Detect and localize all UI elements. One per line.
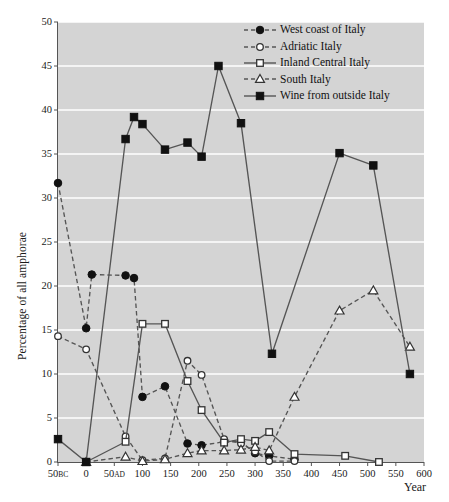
data-point [257,60,264,67]
data-point [83,346,90,353]
data-point [122,438,129,445]
data-point [256,75,265,83]
legend-label: Adriatic Italy [280,41,342,53]
legend-label: Inland Central Italy [280,57,370,69]
data-point [405,342,414,350]
legend-label: Wine from outside Italy [280,90,390,102]
series-line [58,66,410,462]
data-point [121,452,130,460]
y-tick-label: 30 [30,193,52,204]
data-point [161,383,169,391]
legend-label: West coast of Italy [280,24,366,36]
legend-marker-icon [243,89,277,103]
y-tick-label: 40 [30,105,52,116]
data-point [238,436,245,443]
data-point [122,135,129,142]
data-point [268,350,275,357]
y-tick-label: 15 [30,325,52,336]
x-tick-label: 600 [402,469,446,480]
legend-marker-icon [243,56,277,70]
legend-item-inland-central-italy[interactable]: Inland Central Italy [243,55,435,71]
data-point [291,458,298,465]
legend-item-adriatic-italy[interactable]: Adriatic Italy [243,38,435,54]
data-point [198,153,205,160]
data-point [88,271,96,279]
y-tick-label: 45 [30,61,52,72]
data-point [376,459,383,466]
y-tick-label: 5 [30,413,52,424]
series-line [86,324,379,462]
y-tick-label: 25 [30,237,52,248]
data-point [82,324,90,332]
data-point [54,435,61,442]
data-point [184,358,191,365]
legend-item-wine-from-outside-italy[interactable]: Wine from outside Italy [243,88,435,104]
data-point [290,392,299,400]
data-point [406,370,413,377]
y-tick-label: 0 [30,457,52,468]
legend-marker-icon [243,23,277,37]
data-point [130,274,138,282]
y-tick-label: 10 [30,369,52,380]
data-point [54,179,62,187]
data-point [370,162,377,169]
data-point [139,393,147,401]
x-axis-title: Year [404,480,426,495]
legend-label: South Italy [280,74,331,86]
data-point [256,92,263,99]
legend-item-south-italy[interactable]: South Italy [243,71,435,87]
data-point [55,333,62,340]
data-point [237,120,244,127]
data-point [198,407,205,414]
data-point [291,451,298,458]
data-point [257,43,264,50]
chart-root: 05101520253035404550 50BC050AD1001502002… [0,0,449,502]
data-point [130,113,137,120]
y-tick-label: 35 [30,149,52,160]
data-point [184,139,191,146]
data-point [184,378,191,385]
data-point [266,429,273,436]
data-point [266,458,273,465]
data-point [342,453,349,460]
data-point [139,120,146,127]
data-point [336,149,343,156]
data-point [256,26,264,34]
data-point [162,321,169,328]
series-inland-central-italy [83,321,382,466]
data-point [82,458,89,465]
data-point [215,62,222,69]
data-point [335,306,344,314]
legend-item-west-coast-of-italy[interactable]: West coast of Italy [243,22,435,38]
legend-marker-icon [243,40,277,54]
data-point [198,372,205,379]
y-axis-title: Percentage of all amphorae [16,232,28,360]
legend-marker-icon [243,72,277,86]
series-south-italy [82,286,415,465]
y-tick-label: 20 [30,281,52,292]
data-point [161,146,168,153]
chart-legend: West coast of ItalyAdriatic ItalyInland … [243,22,435,104]
data-point [139,321,146,328]
data-point [122,272,130,280]
series-wine-from-outside-italy [54,62,413,465]
y-tick-label: 50 [30,17,52,28]
data-point [369,286,378,294]
data-point [184,440,192,448]
